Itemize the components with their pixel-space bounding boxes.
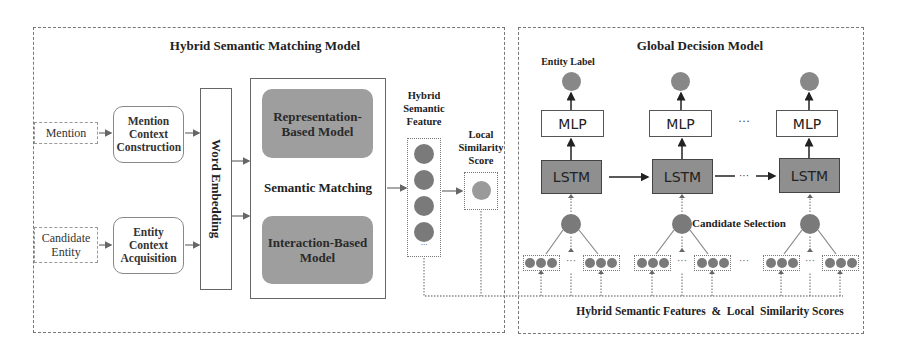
svg-text:···: ···	[739, 170, 749, 181]
connector-overlay: ···	[0, 0, 897, 349]
